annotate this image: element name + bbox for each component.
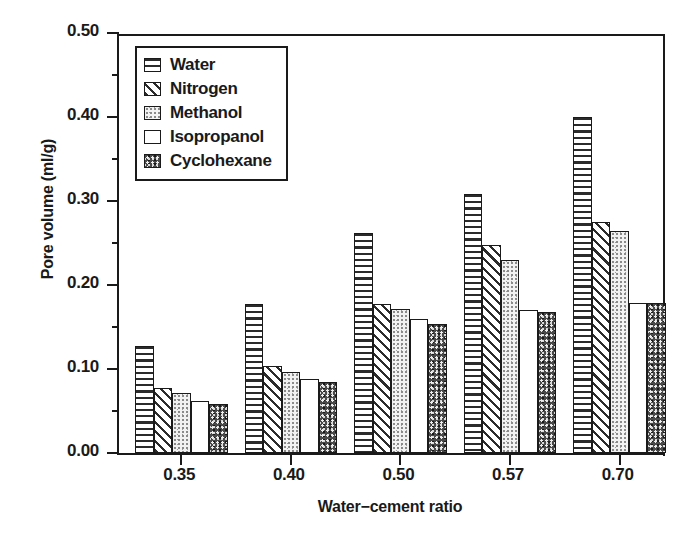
bar-nitrogen-0.35 (154, 388, 173, 453)
bar-isopropanol-0.50 (410, 319, 429, 453)
bar-water-0.70 (573, 117, 592, 453)
x-axis-title: Water−cement ratio (110, 498, 670, 516)
x-tick-label-0.70: 0.70 (573, 465, 663, 485)
legend-swatch-icon-water (144, 58, 161, 72)
x-tick-label-0.40: 0.40 (244, 465, 334, 485)
y-tick-minor (112, 158, 119, 160)
bar-cyclohexane-0.57 (538, 312, 557, 453)
bar-nitrogen-0.57 (482, 245, 501, 453)
legend-label: Isopropanol (170, 127, 264, 147)
y-tick-label: 0.10 (67, 357, 99, 377)
legend-item-cyclohexane: Cyclohexane (144, 149, 272, 173)
y-tick-0.10: 0.10 (107, 368, 119, 370)
x-tick-0.35 (180, 453, 182, 465)
legend-box: WaterNitrogenMethanolIsopropanolCyclohex… (135, 46, 288, 181)
x-tick-label-0.57: 0.57 (463, 465, 553, 485)
bar-methanol-0.70 (610, 231, 629, 453)
x-tick-0.40 (290, 453, 292, 465)
bar-water-0.40 (245, 304, 264, 453)
y-tick-label: 0.30 (67, 189, 99, 209)
legend-item-methanol: Methanol (144, 101, 272, 125)
legend-label: Cyclohexane (170, 151, 272, 171)
bar-methanol-0.57 (501, 260, 520, 453)
x-tick-label-0.35: 0.35 (134, 465, 224, 485)
legend-swatch-icon-cyclohexane (144, 154, 161, 168)
y-tick-label: 0.00 (67, 441, 99, 461)
bar-cyclohexane-0.35 (209, 404, 228, 453)
bar-chart-figure: Pore volume (ml/g) Water−cement ratio 0.… (0, 0, 686, 540)
y-tick-0.30: 0.30 (107, 200, 119, 202)
legend-swatch-icon-isopropanol (144, 130, 161, 144)
bar-water-0.50 (354, 233, 373, 453)
y-tick-minor (112, 410, 119, 412)
legend-swatch-icon-methanol (144, 106, 161, 120)
legend-label: Nitrogen (170, 79, 237, 99)
bar-isopropanol-0.70 (629, 303, 648, 453)
legend-label: Water (170, 55, 215, 75)
y-axis-title: Pore volume (ml/g) (39, 99, 57, 319)
bar-cyclohexane-0.50 (428, 324, 447, 453)
bar-cyclohexane-0.40 (319, 382, 338, 453)
legend-swatch-icon-nitrogen (144, 82, 161, 96)
y-tick-minor (112, 326, 119, 328)
y-tick-0.50: 0.50 (107, 32, 119, 34)
legend-label: Methanol (170, 103, 242, 123)
bar-isopropanol-0.40 (300, 379, 319, 453)
y-tick-0.20: 0.20 (107, 284, 119, 286)
x-tick-0.50 (399, 453, 401, 465)
y-tick-0.40: 0.40 (107, 116, 119, 118)
bar-isopropanol-0.35 (191, 401, 210, 453)
bar-nitrogen-0.70 (592, 222, 611, 453)
bar-water-0.35 (135, 346, 154, 453)
bar-water-0.57 (464, 194, 483, 453)
legend-item-nitrogen: Nitrogen (144, 77, 272, 101)
y-tick-label: 0.50 (67, 21, 99, 41)
x-tick-0.57 (509, 453, 511, 465)
bar-methanol-0.50 (391, 309, 410, 453)
bar-isopropanol-0.57 (519, 310, 538, 453)
bar-nitrogen-0.40 (263, 366, 282, 453)
bar-methanol-0.35 (172, 393, 191, 453)
y-tick-minor (112, 74, 119, 76)
y-tick-label: 0.20 (67, 273, 99, 293)
legend-item-water: Water (144, 53, 272, 77)
legend-item-isopropanol: Isopropanol (144, 125, 272, 149)
x-tick-label-0.50: 0.50 (353, 465, 443, 485)
y-tick-minor (112, 242, 119, 244)
x-tick-0.70 (619, 453, 621, 465)
y-tick-0.00: 0.00 (107, 452, 119, 454)
bar-methanol-0.40 (282, 372, 301, 453)
bar-nitrogen-0.50 (373, 304, 392, 453)
bar-cyclohexane-0.70 (647, 303, 666, 453)
y-tick-label: 0.40 (67, 105, 99, 125)
